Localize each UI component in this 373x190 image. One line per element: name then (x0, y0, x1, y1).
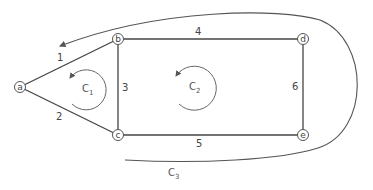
diagram-lines (0, 0, 373, 190)
graph-diagram: a b c d e 1 2 3 4 5 6 C1 C2 C3 (0, 0, 373, 190)
loop-c3-arrow (60, 13, 357, 162)
loop-label-c2: C2 (189, 82, 200, 95)
edge-label-2: 2 (56, 112, 62, 122)
edge-label-5: 5 (196, 139, 202, 149)
edge-label-6: 6 (292, 82, 298, 92)
node-c: c (112, 129, 124, 141)
loop-label-c1: C1 (82, 84, 93, 97)
edge-2 (20, 87, 118, 135)
loop-label-c3: C3 (168, 168, 179, 181)
edge-label-4: 4 (195, 27, 201, 37)
node-e: e (297, 129, 309, 141)
node-d: d (297, 33, 309, 45)
edge-label-3: 3 (122, 83, 128, 93)
node-b: b (112, 33, 124, 45)
edge-label-1: 1 (57, 53, 63, 63)
node-a: a (14, 81, 26, 93)
